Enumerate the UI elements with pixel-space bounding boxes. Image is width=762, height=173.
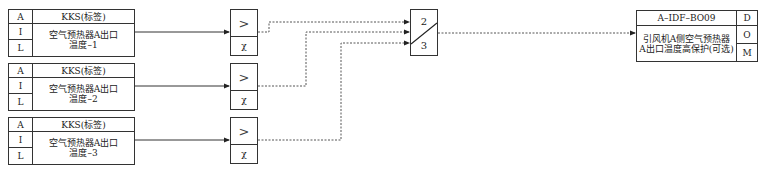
input-block-2: A I L KKS(标签) 空气预热器A出口 温度–2 — [8, 63, 135, 111]
desc-line-2: 温度–2 — [69, 94, 97, 104]
col-label-l: L — [9, 40, 33, 56]
kks-tag: KKS(标签) — [33, 10, 134, 24]
greater-than-operator: > — [231, 10, 257, 37]
threshold-param: χ — [231, 37, 257, 55]
col-label-i: I — [9, 132, 33, 148]
input-block-1: A I L KKS(标签) 空气预热器A出口 温度–1 — [8, 9, 135, 57]
col-label-i: I — [9, 24, 33, 40]
output-description: 引风机A侧空气预热器 A出口温度高保护(可选) — [637, 26, 737, 61]
output-tag: A–IDF–BO09 — [637, 11, 737, 26]
col-label-a: A — [9, 64, 33, 78]
col-label-l: L — [9, 94, 33, 110]
threshold-param: χ — [231, 91, 257, 109]
kks-tag: KKS(标签) — [33, 64, 134, 78]
desc-line-1: 空气预热器A出口 — [49, 84, 119, 94]
greater-than-operator: > — [231, 118, 257, 145]
threshold-param: χ — [231, 145, 257, 163]
comparator-block-3: > χ — [230, 117, 258, 164]
col-label-i: I — [9, 78, 33, 94]
greater-than-operator: > — [231, 64, 257, 91]
desc-line-2: 温度–3 — [69, 148, 97, 158]
desc-line-1: 空气预热器A出口 — [49, 30, 119, 40]
output-block: A–IDF–BO09 引风机A侧空气预热器 A出口温度高保护(可选) D O M — [636, 10, 758, 62]
two-of-three-selector: 2 3 — [410, 9, 438, 56]
desc-line-1: 空气预热器A出口 — [49, 138, 119, 148]
kks-tag: KKS(标签) — [33, 118, 134, 132]
col-label-d: D — [737, 11, 757, 26]
col-label-o: O — [737, 26, 757, 44]
output-desc-line-2: A出口温度高保护(可选) — [639, 44, 734, 54]
input-block-3: A I L KKS(标签) 空气预热器A出口 温度–3 — [8, 117, 135, 165]
comparator-block-1: > χ — [230, 9, 258, 56]
input-description: 空气预热器A出口 温度–3 — [33, 132, 134, 164]
comparator-block-2: > χ — [230, 63, 258, 110]
col-label-l: L — [9, 148, 33, 164]
selector-top-value: 2 — [415, 15, 433, 27]
input-description: 空气预热器A出口 温度–2 — [33, 78, 134, 110]
selector-bottom-value: 3 — [415, 39, 433, 51]
col-label-a: A — [9, 118, 33, 132]
col-label-m: M — [737, 44, 757, 61]
input-description: 空气预热器A出口 温度–1 — [33, 24, 134, 56]
col-label-a: A — [9, 10, 33, 24]
output-desc-line-1: 引风机A侧空气预热器 — [643, 34, 731, 44]
desc-line-2: 温度–1 — [69, 40, 97, 50]
